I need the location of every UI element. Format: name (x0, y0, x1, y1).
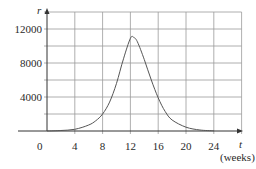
x-tick-label: 16 (153, 140, 165, 152)
y-tick-label: 12000 (15, 23, 43, 35)
x-axis-label: t (239, 138, 243, 150)
x-tick-label: 20 (181, 140, 193, 152)
x-tick-label: 4 (72, 140, 78, 152)
y-tick-label: 4000 (20, 91, 43, 103)
line-chart: 48121620244000800012000 r t (weeks) 0 (0, 0, 256, 169)
y-tick-label: 8000 (20, 57, 43, 69)
grid (44, 12, 242, 134)
tick-labels: 48121620244000800012000 (15, 23, 220, 152)
x-tick-label: 12 (125, 140, 136, 152)
x-tick-label: 24 (208, 140, 220, 152)
x-axis-arrow-icon (237, 129, 243, 134)
origin-label: 0 (37, 140, 43, 152)
x-tick-label: 8 (100, 140, 106, 152)
x-axis-unit: (weeks) (220, 151, 255, 164)
y-axis-label: r (37, 4, 42, 16)
y-axis-arrow-icon (45, 8, 50, 14)
chart-svg: 48121620244000800012000 r t (weeks) 0 (0, 0, 256, 169)
